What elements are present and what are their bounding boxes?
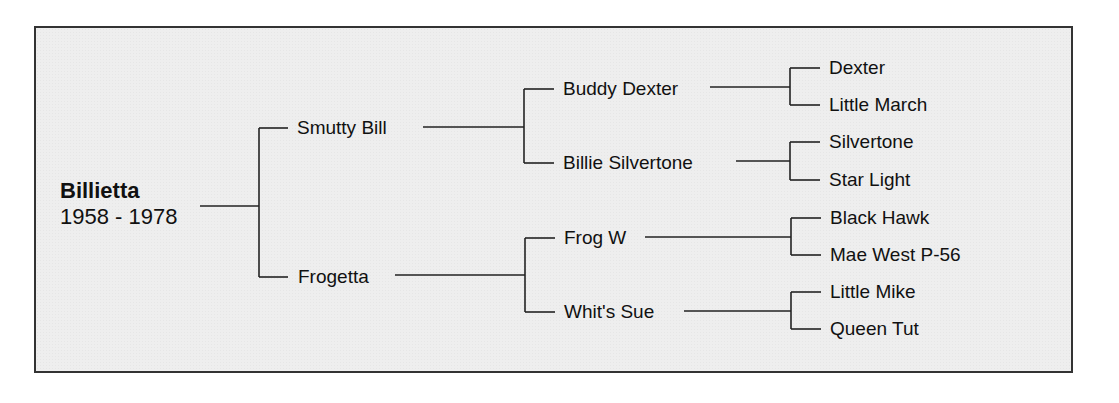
dam-dam-name: Whit's Sue (564, 301, 654, 323)
great-grandsire-3: Black Hawk (830, 207, 929, 229)
great-grandsire-1: Dexter (829, 57, 885, 79)
sire-sire-name: Buddy Dexter (563, 78, 678, 100)
subject-name: Billietta (60, 179, 139, 203)
sire-name: Smutty Bill (297, 117, 387, 139)
great-grandsire-2: Silvertone (829, 131, 914, 153)
dam-name: Frogetta (298, 266, 369, 288)
great-granddam-4: Queen Tut (830, 318, 919, 340)
great-granddam-1: Little March (829, 94, 927, 116)
great-granddam-2: Star Light (829, 169, 910, 191)
great-grandsire-4: Little Mike (830, 281, 916, 303)
sire-dam-name: Billie Silvertone (563, 152, 693, 174)
great-granddam-3: Mae West P-56 (830, 244, 961, 266)
dam-sire-name: Frog W (564, 227, 626, 249)
subject-dates: 1958 - 1978 (60, 205, 177, 229)
pedigree-connector-lines (0, 0, 1119, 403)
